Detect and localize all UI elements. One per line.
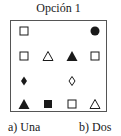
- hollow-triangle-icon: [89, 98, 101, 110]
- option-a: a) Una: [8, 120, 40, 134]
- filled-diamond-icon: [18, 75, 30, 87]
- hollow-square-icon: [18, 50, 30, 62]
- figure-title: Opción 1: [0, 1, 117, 15]
- hollow-square-icon: [89, 50, 101, 62]
- hollow-triangle-icon: [42, 50, 54, 62]
- filled-triangle-icon: [18, 98, 30, 110]
- shape-grid-frame: [10, 20, 107, 112]
- hollow-square-icon: [66, 98, 78, 110]
- hollow-diamond-icon: [66, 75, 78, 87]
- filled-triangle-icon: [66, 50, 78, 62]
- option-b: b) Dos: [79, 120, 111, 134]
- filled-circle-icon: [89, 25, 101, 37]
- filled-square-icon: [42, 98, 54, 110]
- hollow-square-icon: [18, 25, 30, 37]
